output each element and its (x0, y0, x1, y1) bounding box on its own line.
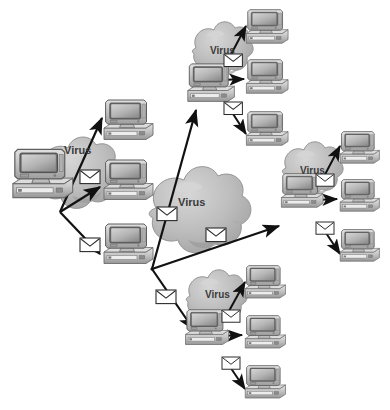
virus-label-right: Virus (300, 165, 325, 176)
envelope-center-left[interactable] (157, 207, 177, 221)
target-computer-2[interactable] (245, 316, 285, 348)
virus-propagation-diagram: Virus Virus (0, 0, 390, 410)
envelope-origin-2[interactable] (80, 238, 100, 252)
distribution-hub (150, 267, 153, 270)
envelope-origin-1[interactable] (80, 170, 100, 184)
envelope-bottom-2[interactable] (222, 357, 240, 369)
virus-label-center: Virus (178, 196, 205, 208)
target-computer-3[interactable] (246, 112, 288, 146)
envelope-to-bottom[interactable] (156, 290, 176, 304)
outbound-envelopes (156, 290, 176, 304)
target-computer-2[interactable] (246, 60, 288, 94)
target-computer-3[interactable] (104, 224, 153, 264)
virus-label-origin: Virus (64, 144, 91, 156)
envelope-top-2[interactable] (224, 102, 242, 115)
virus-label-top: Virus (210, 45, 235, 56)
target-computer-3[interactable] (245, 366, 285, 398)
diagram-canvas: Virus Virus (0, 0, 390, 410)
source-computer[interactable] (188, 64, 235, 102)
target-computer-2[interactable] (104, 160, 153, 200)
envelope-right-2[interactable] (316, 222, 334, 234)
target-computer-3[interactable] (340, 230, 379, 262)
source-computer[interactable] (13, 149, 73, 197)
target-computer-1[interactable] (104, 100, 153, 140)
envelope-center-right[interactable] (206, 228, 226, 242)
target-computer-1[interactable] (340, 132, 379, 164)
target-computer-1[interactable] (246, 10, 288, 44)
envelope-bottom-1[interactable] (222, 310, 240, 322)
target-computer-2[interactable] (340, 180, 379, 212)
virus-label-bottom: Virus (205, 289, 230, 300)
target-computer-1[interactable] (245, 266, 285, 298)
